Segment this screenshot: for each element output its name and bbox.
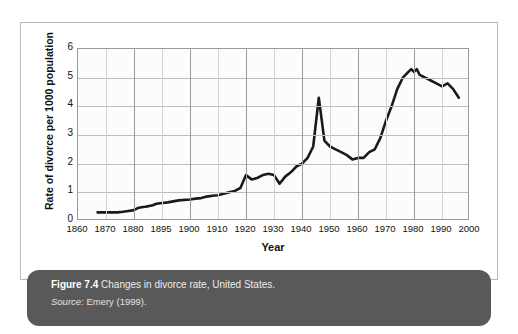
y-tick-label: 2	[53, 156, 73, 167]
source-label: Source:	[51, 296, 84, 307]
chart-area: Rate of divorce per 1000 population 0123…	[21, 23, 499, 281]
x-axis-title: Year	[77, 241, 469, 253]
gridline-horizontal	[78, 164, 468, 165]
x-axis-ticks: 1860187018801895190019101920193019401950…	[77, 223, 469, 239]
gridline-vertical	[386, 49, 387, 219]
figure-number: Figure 7.4	[51, 279, 98, 290]
x-tick-label: 2000	[449, 223, 489, 234]
gridline-vertical	[414, 49, 415, 219]
gridline-horizontal	[78, 78, 468, 79]
gridline-vertical	[218, 49, 219, 219]
gridline-vertical	[106, 49, 107, 219]
figure-caption-bar: Figure 7.4 Changes in divorce rate, Unit…	[27, 270, 491, 326]
gridline-vertical	[274, 49, 275, 219]
figure-card: Rate of divorce per 1000 population 0123…	[20, 22, 498, 280]
plot-frame	[77, 48, 469, 220]
gridline-horizontal	[78, 192, 468, 193]
y-tick-label: 6	[53, 41, 73, 52]
figure-caption-line: Figure 7.4 Changes in divorce rate, Unit…	[51, 278, 491, 292]
figure-caption-text: Changes in divorce rate, United States.	[101, 279, 275, 290]
figure-source-line: Source: Emery (1999).	[51, 295, 491, 309]
source-text: Emery (1999).	[86, 296, 146, 307]
y-tick-label: 4	[53, 98, 73, 109]
gridline-vertical	[134, 49, 135, 219]
gridline-horizontal	[78, 135, 468, 136]
y-tick-label: 5	[53, 70, 73, 81]
gridline-vertical	[302, 49, 303, 219]
gridline-horizontal	[78, 106, 468, 107]
gridline-vertical	[246, 49, 247, 219]
gridline-vertical	[442, 49, 443, 219]
y-tick-label: 3	[53, 127, 73, 138]
y-axis-ticks: 0123456	[51, 48, 73, 220]
gridline-vertical	[330, 49, 331, 219]
figure-page: Rate of divorce per 1000 population 0123…	[0, 0, 518, 334]
y-tick-label: 1	[53, 184, 73, 195]
gridline-vertical	[162, 49, 163, 219]
gridline-vertical	[190, 49, 191, 219]
gridline-vertical	[358, 49, 359, 219]
